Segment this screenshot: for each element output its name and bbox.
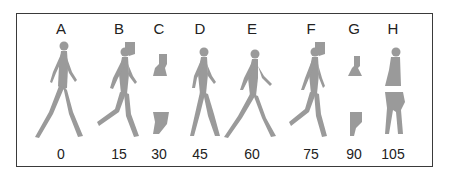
walker-silhouette-icon [31,38,91,144]
panel-letter: D [170,20,230,37]
panel-value: 105 [363,146,423,162]
panel-letter: H [363,20,423,37]
partial-silhouette-icon [363,38,423,144]
figure-frame: A 0 B 15 [16,13,433,167]
panel-value: 45 [170,146,230,162]
panel-e: E 60 [222,14,282,168]
panel-value: 0 [31,146,91,162]
walker-silhouette-icon [222,38,282,144]
panel-letter: E [222,20,282,37]
panel-value: 60 [222,146,282,162]
panel-d: D 45 [170,14,230,168]
walker-silhouette-icon [170,38,230,144]
panel-h: H 105 [363,14,423,168]
panel-letter: A [31,20,91,37]
panel-a: A 0 [31,14,91,168]
